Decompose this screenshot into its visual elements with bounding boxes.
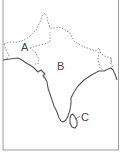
region-label-c: C [81,112,89,123]
map-canvas [0,0,126,154]
island-sri-lanka [70,114,77,128]
region-label-a: A [21,42,28,53]
region-east-boundary-dashed [98,52,112,70]
region-label-b: B [57,61,64,72]
map-figure: A B C [0,0,126,154]
label-c-leader-line [76,116,80,119]
